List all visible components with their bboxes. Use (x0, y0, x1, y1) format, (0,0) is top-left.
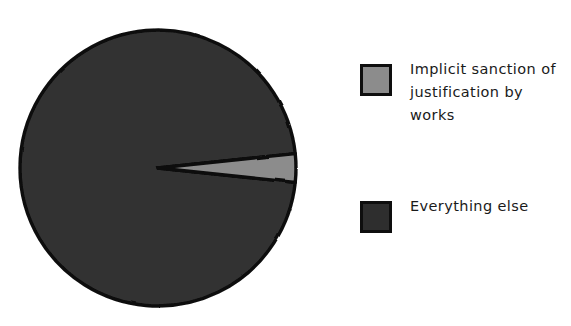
legend-label-everything-else: Everything else (410, 193, 529, 218)
chart-figure: Implicit sanction of justification by wo… (0, 0, 571, 326)
legend-entry-implicit-sanction[interactable]: Implicit sanction of justification by wo… (360, 56, 568, 127)
chart-legend: Implicit sanction of justification by wo… (360, 56, 568, 233)
legend-swatch-everything-else (360, 201, 392, 233)
legend-swatch-implicit-sanction (360, 64, 392, 96)
legend-label-implicit-sanction: Implicit sanction of justification by wo… (410, 56, 568, 127)
legend-entry-everything-else[interactable]: Everything else (360, 193, 568, 233)
